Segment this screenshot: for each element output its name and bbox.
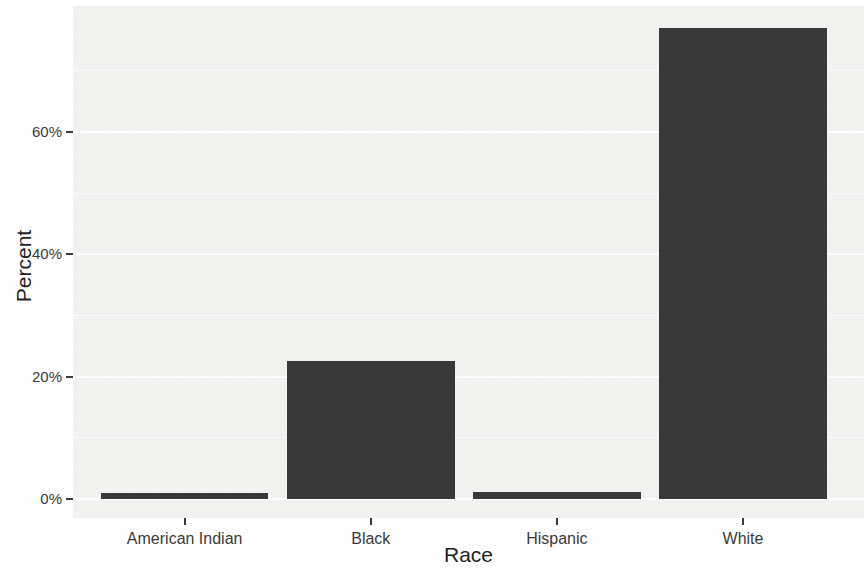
bar-american-indian — [101, 493, 269, 499]
y-tick-label-0: 0% — [0, 489, 62, 509]
y-axis-title: Percent — [12, 230, 36, 302]
x-tick-mark-black — [370, 518, 372, 525]
y-tick-label-60: 60% — [0, 122, 62, 142]
bar-black — [287, 361, 455, 499]
x-tick-mark-white — [742, 518, 744, 525]
x-tick-mark-american-indian — [184, 518, 186, 525]
bar-white — [659, 28, 827, 499]
y-tick-label-20: 20% — [0, 367, 62, 387]
y-tick-mark-40 — [66, 253, 73, 255]
y-tick-mark-20 — [66, 376, 73, 378]
bar-hispanic — [473, 492, 641, 499]
y-tick-mark-60 — [66, 131, 73, 133]
y-tick-mark-0 — [66, 498, 73, 500]
bar-chart-figure: 0%20%40%60% American IndianBlackHispanic… — [0, 0, 864, 570]
x-axis-title: Race — [73, 543, 864, 567]
plot-panel — [73, 6, 864, 518]
x-tick-mark-hispanic — [556, 518, 558, 525]
